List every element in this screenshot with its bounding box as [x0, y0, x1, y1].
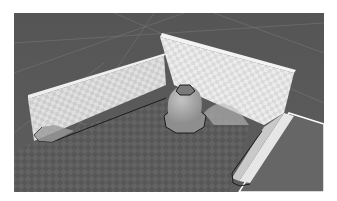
3d-viewport[interactable] — [14, 13, 324, 192]
